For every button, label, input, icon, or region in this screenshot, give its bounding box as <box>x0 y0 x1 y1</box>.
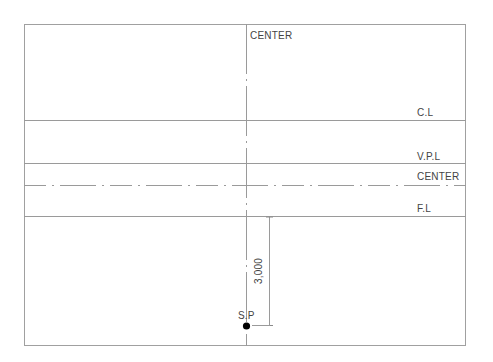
station-point-label: S.P <box>238 311 255 321</box>
center-horizontal-label: CENTER <box>417 172 459 182</box>
floor-line-label: F.L <box>417 204 431 214</box>
vpl-label: V.P.L <box>417 152 440 162</box>
station-point-marker <box>243 322 250 329</box>
dimension-label: 3,000 <box>254 258 264 284</box>
center-top-label: CENTER <box>250 31 292 41</box>
ceiling-line-label: C.L <box>417 108 433 118</box>
